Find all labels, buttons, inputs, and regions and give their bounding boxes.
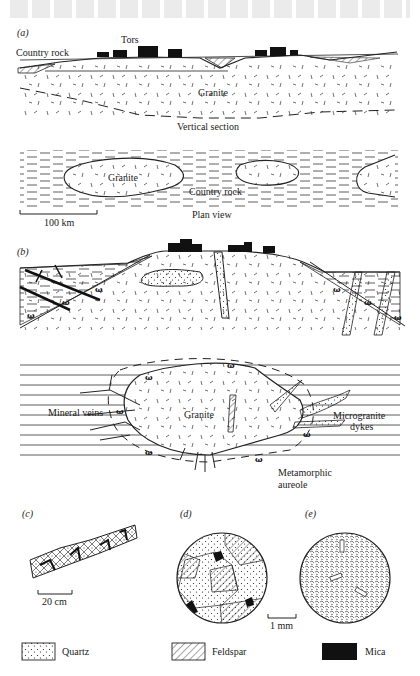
legend-label-feldspar: Feldspar	[212, 646, 246, 657]
svg-text:ω: ω	[303, 429, 311, 439]
svg-text:ω: ω	[145, 372, 153, 382]
label-granite: Granite	[198, 87, 228, 98]
legend-label-quartz: Quartz	[62, 646, 89, 657]
svg-text:ω: ω	[394, 312, 402, 322]
svg-text:ω: ω	[227, 360, 235, 370]
mineral-vein-c	[30, 525, 137, 594]
scale-bar-100km	[20, 210, 97, 214]
panel-label-c: (c)	[22, 508, 33, 519]
svg-text:ω: ω	[255, 454, 263, 464]
legend-swatch-quartz	[22, 643, 55, 660]
label-country-rock: Country rock	[16, 47, 69, 58]
caption-plan-view: Plan view	[192, 209, 232, 220]
svg-text:ω: ω	[27, 310, 35, 320]
plan-view	[20, 150, 398, 214]
fine-granite-thin-section	[300, 533, 390, 623]
scale-label-20cm: 20 cm	[42, 596, 67, 607]
label-country-rock-plan: Country rock	[189, 186, 242, 197]
label-aureole: aureole	[278, 479, 307, 490]
svg-text:ω: ω	[145, 447, 153, 457]
svg-text:ω: ω	[62, 297, 70, 307]
scale-label-100km: 100 km	[44, 217, 74, 228]
label-microgranite: Microgranite	[333, 410, 385, 421]
scale-bar-20cm	[38, 590, 72, 594]
legend-label-mica: Mica	[365, 646, 386, 657]
geology-diagram: ωωω ωωω ωω ωω ωω	[0, 0, 420, 676]
svg-text:ω: ω	[116, 406, 124, 416]
label-tors: Tors	[121, 34, 139, 45]
caption-vertical-section: Vertical section	[177, 121, 239, 132]
panel-label-e: (e)	[305, 508, 316, 519]
legend-swatch-mica	[322, 643, 357, 660]
svg-text:ω: ω	[95, 284, 103, 294]
panel-label-d: (d)	[180, 508, 192, 519]
label-granite-plan: Granite	[108, 172, 138, 183]
label-granite-b: Granite	[184, 409, 214, 420]
panel-label-a: (a)	[17, 27, 29, 38]
label-metamorphic: Metamorphic	[278, 467, 332, 478]
vertical-section	[18, 46, 398, 118]
label-dykes: dykes	[350, 421, 373, 432]
svg-text:ω: ω	[364, 297, 372, 307]
label-mineral-veins: Mineral veins	[48, 407, 103, 418]
scale-label-1mm: 1 mm	[270, 620, 293, 631]
scale-bar-1mm	[268, 614, 296, 618]
tors	[97, 46, 298, 57]
legend-swatch-feldspar	[172, 643, 205, 660]
panel-label-b: (b)	[17, 246, 29, 257]
svg-text:ω: ω	[333, 284, 341, 294]
cross-section-b: ωωω ωωω	[20, 239, 405, 335]
coarse-granite-thin-section	[175, 530, 296, 625]
